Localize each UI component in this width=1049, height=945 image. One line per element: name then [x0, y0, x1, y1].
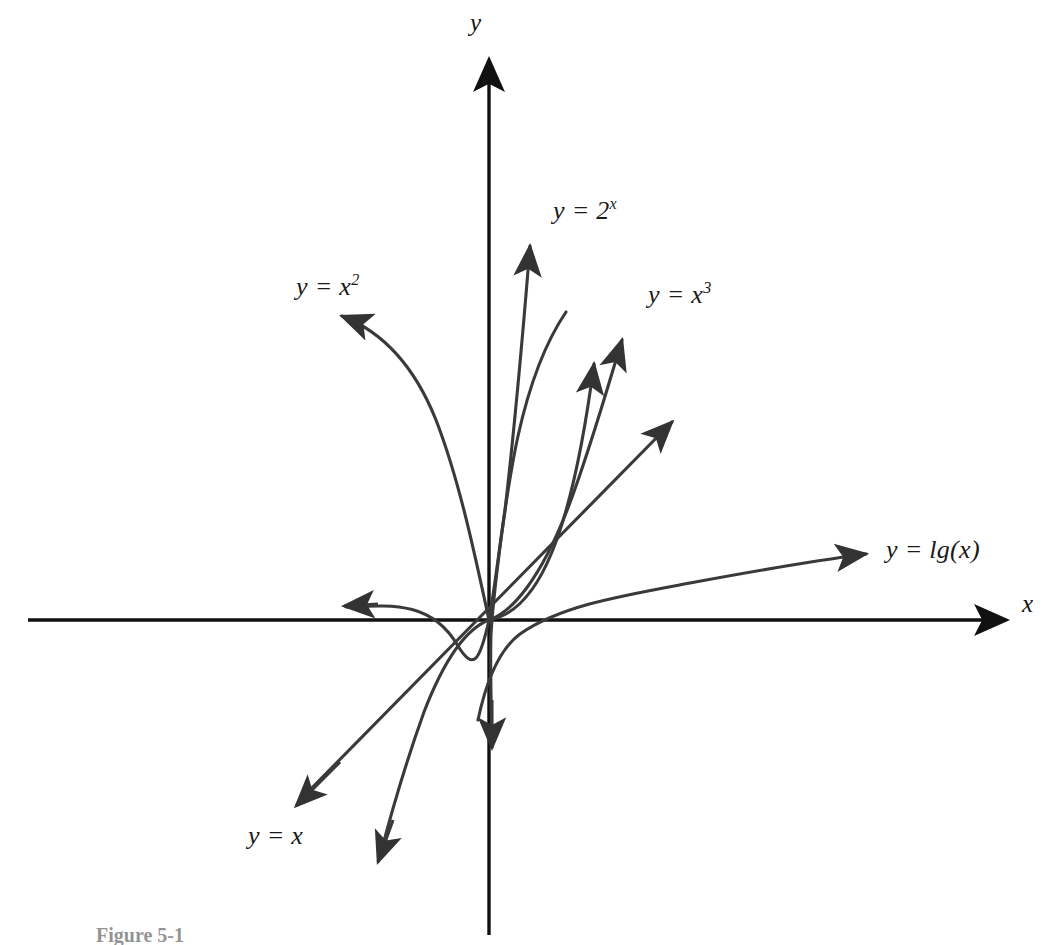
curve-label-logarithm-text: y = lg(x) [886, 535, 980, 564]
curve-label-identity: y = x [248, 823, 303, 849]
curve-logarithm [478, 554, 866, 720]
curve-label-exponential-text: y = 2 [553, 196, 610, 225]
curve-exponential-path [491, 246, 530, 742]
parabola-left-arrow [344, 604, 378, 606]
curve-identity [296, 422, 672, 806]
function-plot-canvas [0, 0, 1049, 945]
curve-label-exponential: y = 2x [553, 198, 617, 224]
curve-label-cubic: y = x3 [648, 282, 711, 308]
curve-label-cubic-exponent: 3 [703, 279, 711, 296]
curve-exponential [491, 246, 530, 748]
y-axis-label: y [470, 10, 481, 35]
curve-label-parabola: y = x2 [296, 274, 359, 300]
curve-logarithm-path [478, 554, 866, 720]
figure-caption: Figure 5-1 [96, 925, 184, 945]
curve-cubic-secondary-path [489, 364, 594, 620]
curve-parabola-left-path [342, 316, 489, 620]
figure-container: y = x2 y = 2x y = x3 y = lg(x) y = x y x… [0, 0, 1049, 945]
curve-cubic-secondary [489, 364, 594, 620]
curve-label-identity-text: y = x [248, 821, 303, 850]
identity-down-arrow [296, 762, 340, 806]
curve-label-exponential-exponent: x [610, 195, 617, 212]
curve-parabola [344, 312, 566, 660]
curve-label-logarithm: y = lg(x) [886, 537, 980, 563]
curve-label-parabola-exponent: 2 [351, 271, 359, 288]
axis-group [28, 60, 1006, 935]
cubic-down-arrow [378, 820, 393, 862]
x-axis-label: x [1022, 591, 1033, 616]
curve-label-parabola-text: y = x [296, 272, 351, 301]
curve-identity-path [300, 422, 672, 800]
curve-label-cubic-text: y = x [648, 280, 703, 309]
curve-parabola-left-branch [342, 316, 489, 620]
